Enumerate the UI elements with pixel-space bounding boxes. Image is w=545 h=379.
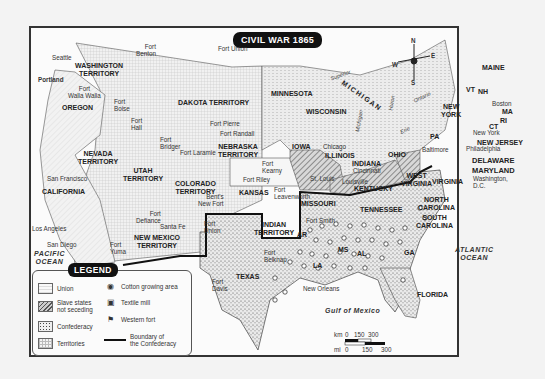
city-cincinnati: Cincinnati [353,167,381,174]
legend-item-textile-mill: ▣ Textile mill [104,299,150,306]
city-washington-dc: Washington, D.C. [473,175,508,189]
label-missouri: MISSOURI [301,200,336,208]
label-nevada-territory: NEVADA TERRITORY [78,150,118,165]
legend-item-confederacy: Confederacy [38,321,93,332]
label-rhode-island: RI [500,117,507,125]
scale-mi-label: mi [334,346,341,353]
fort-randall: Fort Randall [220,130,254,137]
legend-label: Textile mill [121,299,150,306]
label-vermont: VT [466,86,475,94]
label-alabama: AL [357,250,366,258]
fort-bents-new-fort: Bent's New Fort [198,193,224,207]
label-west-virginia: WEST VIRGINIA [401,172,432,187]
city-baltimore: Baltimore [422,146,449,153]
label-virginia: VIRGINIA [432,178,463,186]
fort-leavenworth: Fort Leavenworth [274,186,310,200]
fort-smith: Fort Smith [306,217,335,224]
label-tennessee: TENNESSEE [360,206,402,214]
fort-union-north: Fort Union [218,45,247,52]
legend-label: Union [57,285,73,292]
legend-item-cotton: ◉ Cotton growing area [104,283,178,290]
label-washington-territory: WASHINGTON TERRITORY [75,62,123,77]
legend-title: LEGEND [68,263,118,277]
fort-laramie: Fort Laramie [180,149,216,156]
legend-label: Boundary of the Confederacy [130,333,176,347]
label-florida: FLORIDA [417,291,448,299]
fort-hall: Fort Hall [131,117,142,131]
label-kansas: KANSAS [239,189,269,197]
label-pennsylvania: PA [430,133,439,141]
city-seattle: Seattle [52,54,72,61]
label-maryland: MARYLAND [472,167,515,175]
legend-label: Territories [57,340,85,347]
compass-e: E [431,52,435,59]
label-nebraska-territory: NEBRASKA TERRITORY [218,143,258,158]
city-portland: Portland [38,76,64,83]
compass-s: S [411,79,415,86]
fort-davis: Fort Davis [212,278,228,292]
label-indian-territory: INDIAN TERRITORY [254,221,294,236]
city-boston: Boston [492,100,512,107]
fort-yuma: Fort Yuma [110,241,126,255]
label-iowa: IOWA [292,143,311,151]
legend-item-slave-states: Slave states not seceding [38,299,93,313]
fort-bridger: Fort Bridger [160,136,180,150]
label-wisconsin: WISCONSIN [306,108,346,116]
city-san-diego: San Diego [47,241,76,248]
city-louisville: Louisville [342,178,368,185]
legend-label: Western fort [121,316,155,323]
fort-belknap: Fort Belknap [264,249,287,263]
territories-swatch [38,338,53,349]
confederacy-swatch [38,321,53,332]
label-illinois: ILLINOIS [325,152,355,160]
scale-mi-150: 150 [362,346,373,353]
label-new-york: NEW YORK [441,103,461,118]
compass-n: N [411,37,416,44]
city-chicago: Chicago [323,143,346,150]
fort-walla-walla: Fort Walla Walla [68,85,101,99]
city-philadelphia: Philadelphia [466,145,500,152]
fort-kearny: Fort Kearny [262,160,282,174]
city-new-york: New York [473,129,500,136]
fort-union-nm: Fort Union [204,220,220,234]
union-swatch [38,283,53,294]
textile-mill-icon: ▣ [104,299,117,306]
label-texas: TEXAS [236,273,259,281]
scale-km-150: 150 [354,331,365,338]
legend-label: Confederacy [57,323,93,330]
label-oregon: OREGON [62,104,93,112]
legend-item-union: Union [38,283,73,294]
label-gulf-of-mexico: Gulf of Mexico [325,307,380,315]
label-georgia: GA [404,249,415,257]
legend-label: Slave states not seceding [57,299,93,313]
label-california: CALIFORNIA [42,188,85,196]
fort-riley: Fort Riley [243,176,270,183]
legend-item-territories: Territories [38,338,85,349]
label-north-carolina: NORTH CAROLINA [418,196,455,211]
cotton-icon: ◉ [104,283,117,290]
label-delaware: DELAWARE [472,157,515,165]
label-louisiana: LA [313,262,322,270]
label-dakota-territory: DAKOTA TERRITORY [178,99,249,107]
city-new-orleans: New Orleans [303,285,339,292]
scale-km-0: 0 [345,331,349,338]
scale-mi-300: 300 [381,346,392,353]
boundary-line-icon [104,339,126,341]
label-mississippi: MS [338,246,349,254]
label-utah-territory: UTAH TERRITORY [123,167,163,182]
fort-pierre: Fort Pierre [210,120,240,127]
fort-boise: Fort Boise [114,98,130,112]
fort-icon: ⚑ [104,316,117,323]
label-massachusetts: MA [502,108,513,116]
scale-bar [345,339,385,345]
fort-benton: Fort Benton [136,43,156,57]
label-kentucky: KENTUCKY [354,185,393,193]
slave-states-swatch [38,301,53,312]
fort-defiance: Fort Defiance [136,210,161,224]
label-south-carolina: SOUTH CAROLINA [416,214,453,229]
legend-label: Cotton growing area [121,283,178,290]
label-new-mexico-territory: NEW MEXICO TERRITORY [134,234,180,249]
label-maine: MAINE [482,64,505,72]
scale-mi-0: 0 [345,346,349,353]
city-st-louis: St. Louis [310,175,335,182]
